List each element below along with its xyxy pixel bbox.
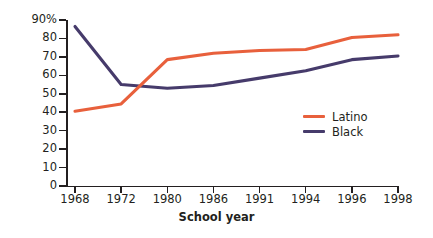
- legend-label-latino: Latino: [332, 110, 367, 124]
- chart-container: 90%80706050403020100 1968197219801986199…: [0, 0, 433, 238]
- x-axis-title: School year: [0, 210, 433, 224]
- series-line-black: [75, 26, 398, 88]
- series-line-latino: [75, 35, 398, 112]
- legend-label-black: Black: [332, 125, 363, 139]
- legend-swatch-latino: [303, 115, 325, 118]
- chart-legend: Latino Black: [303, 110, 393, 140]
- legend-swatch-black: [303, 130, 325, 133]
- legend-item-latino[interactable]: Latino: [303, 110, 393, 124]
- legend-item-black[interactable]: Black: [303, 125, 393, 139]
